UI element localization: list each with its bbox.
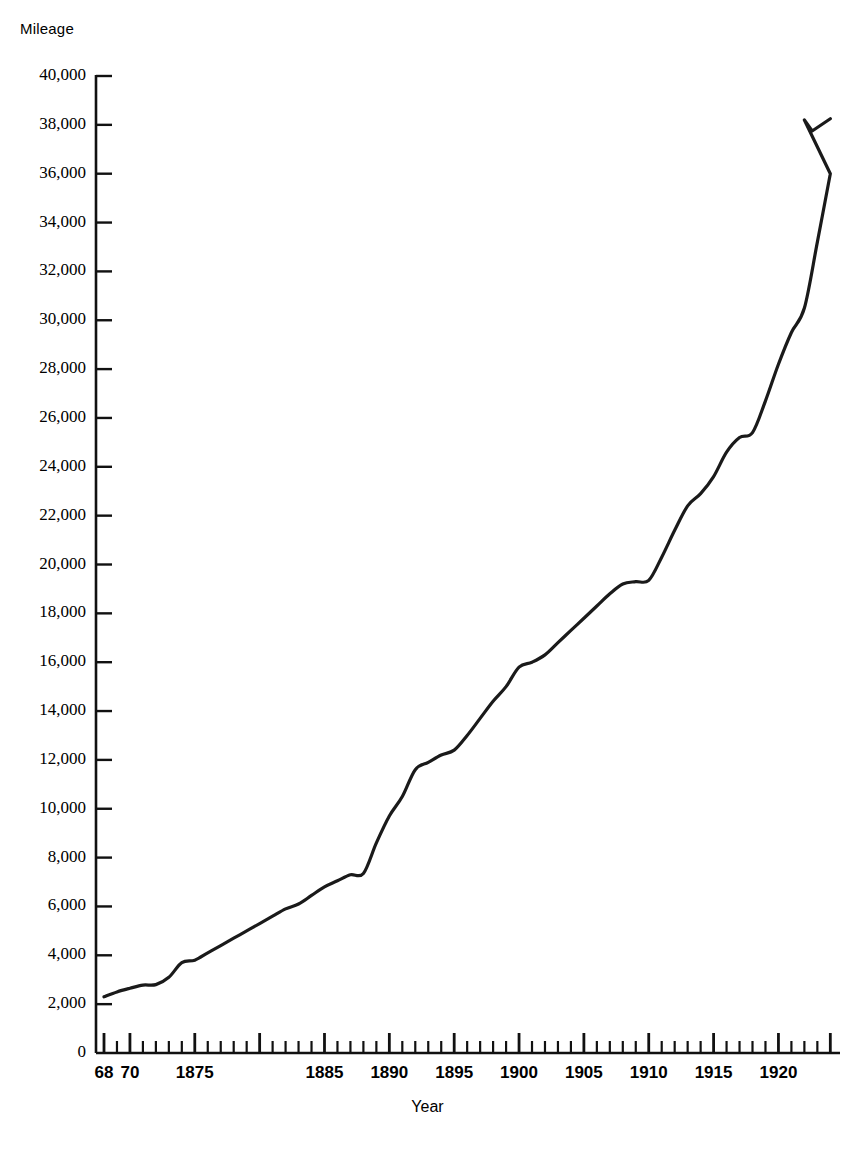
data-series-group <box>104 119 830 997</box>
y-tick-label: 0 <box>78 1042 87 1062</box>
x-tick-label: 1895 <box>419 1063 489 1083</box>
y-tick-label: 28,000 <box>39 358 86 378</box>
y-tick-label: 10,000 <box>39 798 86 818</box>
y-tick-label: 2,000 <box>48 993 86 1013</box>
x-tick-label: 1905 <box>549 1063 619 1083</box>
y-tick-label: 20,000 <box>39 554 86 574</box>
axes-group <box>96 75 840 1053</box>
y-tick-label: 22,000 <box>39 505 86 525</box>
y-tick-label: 4,000 <box>48 944 86 964</box>
y-tick-label: 30,000 <box>39 309 86 329</box>
railway-mileage-line-chart: Mileage Year 02,0004,0006,0008,00010,000… <box>0 0 855 1151</box>
y-tick-label: 36,000 <box>39 163 86 183</box>
y-tick-label: 6,000 <box>48 895 86 915</box>
y-tick-label: 16,000 <box>39 651 86 671</box>
x-axis-title: Year <box>0 1098 855 1116</box>
y-tick-label: 40,000 <box>39 65 86 85</box>
tick-marks-group <box>96 76 830 1053</box>
y-tick-label: 34,000 <box>39 212 86 232</box>
y-tick-label: 26,000 <box>39 407 86 427</box>
plot-area <box>0 0 855 1151</box>
x-tick-label: 1900 <box>484 1063 554 1083</box>
y-tick-label: 38,000 <box>39 114 86 134</box>
y-tick-label: 18,000 <box>39 602 86 622</box>
x-tick-label: 1875 <box>160 1063 230 1083</box>
x-tick-label: 1885 <box>289 1063 359 1083</box>
y-axis-title: Mileage <box>20 20 74 37</box>
x-tick-label: 1920 <box>743 1063 813 1083</box>
y-tick-label: 8,000 <box>48 847 86 867</box>
x-tick-label: 70 <box>95 1063 165 1083</box>
x-tick-label: 1890 <box>354 1063 424 1083</box>
y-tick-label: 12,000 <box>39 749 86 769</box>
y-tick-label: 32,000 <box>39 260 86 280</box>
data-line-mileage <box>104 119 830 997</box>
y-tick-label: 24,000 <box>39 456 86 476</box>
x-tick-label: 1915 <box>679 1063 749 1083</box>
y-tick-label: 14,000 <box>39 700 86 720</box>
x-tick-label: 1910 <box>614 1063 684 1083</box>
